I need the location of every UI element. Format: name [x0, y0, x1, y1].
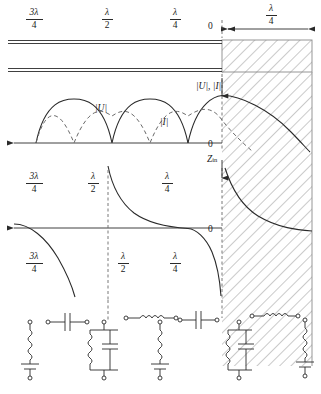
- axis-label-lambda-over-4-load: λ 4: [260, 4, 282, 26]
- impedance-zero-label: 0: [208, 225, 213, 235]
- impedance-upper-label-3lambda-over-4: 3λ 4: [22, 172, 46, 194]
- impedance-lower-label-lambda-over-4: λ 4: [164, 252, 186, 274]
- fraction-numerator: λ: [112, 252, 134, 263]
- circuit-series-capacitor-2: [178, 311, 219, 329]
- fraction-denominator: 2: [82, 184, 104, 195]
- fraction-numerator: λ: [96, 8, 118, 19]
- fraction-numerator: λ: [164, 252, 186, 263]
- wave-zero-label: 0: [208, 140, 213, 150]
- impedance-lower-label-3lambda-over-4: 3λ 4: [22, 252, 46, 274]
- fraction-numerator: λ: [82, 172, 104, 183]
- impedance-lower-label-lambda-over-2: λ 2: [112, 252, 134, 274]
- fraction-denominator: 4: [164, 264, 186, 275]
- fraction-numerator: 3λ: [22, 8, 46, 19]
- fraction-denominator: 4: [22, 264, 46, 275]
- fraction-denominator: 4: [22, 20, 46, 31]
- hatched-load-region-wave: [222, 72, 312, 164]
- fraction-denominator: 4: [164, 20, 186, 31]
- current-curve-label: |I|: [160, 118, 168, 128]
- current-magnitude-curve: [36, 109, 252, 151]
- wave-axis-label: |U|, |I|: [196, 82, 221, 92]
- fraction-numerator: 3λ: [22, 172, 46, 183]
- fraction-denominator: 2: [112, 264, 134, 275]
- figure-canvas: [0, 0, 321, 394]
- axis-label-3lambda-over-4-top: 3λ 4: [22, 8, 46, 30]
- hatched-load-region-impedance: [222, 164, 312, 306]
- impedance-upper-label-lambda-over-4: λ 4: [156, 172, 178, 194]
- circuit-series-LC-shunt: [21, 320, 39, 380]
- axis-label-zero-top: 0: [208, 22, 213, 32]
- impedance-subscript: in: [212, 156, 217, 163]
- hatched-load-region-upper: [222, 40, 312, 72]
- fraction-denominator: 4: [156, 184, 178, 195]
- fraction-denominator: 4: [22, 184, 46, 195]
- circuit-parallel-LC-tank: [88, 320, 118, 380]
- fraction-numerator: λ: [164, 8, 186, 19]
- impedance-upper-label-lambda-over-2: λ 2: [82, 172, 104, 194]
- circuit-series-inductor: [124, 316, 178, 321]
- fraction-numerator: 3λ: [22, 252, 46, 263]
- fraction-denominator: 2: [96, 20, 118, 31]
- transmission-line-standing-wave-figure: 3λ 4 λ 2 λ 4 0 λ 4 |U|, |I| |U| |I| 0 Zi…: [0, 0, 321, 394]
- fraction-denominator: 4: [260, 16, 282, 27]
- transmission-line-conductors: [8, 41, 222, 72]
- circuit-series-LC-shunt-2: [151, 320, 169, 380]
- fraction-numerator: λ: [156, 172, 178, 183]
- fraction-numerator: λ: [260, 4, 282, 15]
- impedance-axis-label: Zin: [207, 155, 217, 165]
- circuit-series-capacitor: [46, 313, 89, 331]
- axis-label-lambda-over-2-top: λ 2: [96, 8, 118, 30]
- axis-label-lambda-over-4-top: λ 4: [164, 8, 186, 30]
- voltage-curve-label: |U|: [95, 104, 107, 114]
